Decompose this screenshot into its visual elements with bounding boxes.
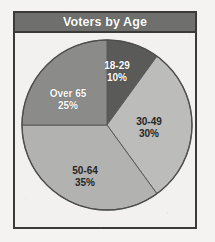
pie-chart — [15, 33, 195, 227]
chart-title-banner: Voters by Age — [15, 13, 195, 33]
pie-plot-area: 18-29 10% 30-49 30% 50-64 35% Over 65 25… — [15, 33, 195, 227]
figure-page: Voters by Age 18-29 10% 30-49 30% 50-64 … — [0, 0, 215, 242]
pie-slice-group — [22, 40, 192, 210]
chart-frame: Voters by Age 18-29 10% 30-49 30% 50-64 … — [13, 11, 197, 229]
chart-title: Voters by Age — [63, 16, 147, 29]
pie-slice-over-65 — [22, 40, 107, 125]
